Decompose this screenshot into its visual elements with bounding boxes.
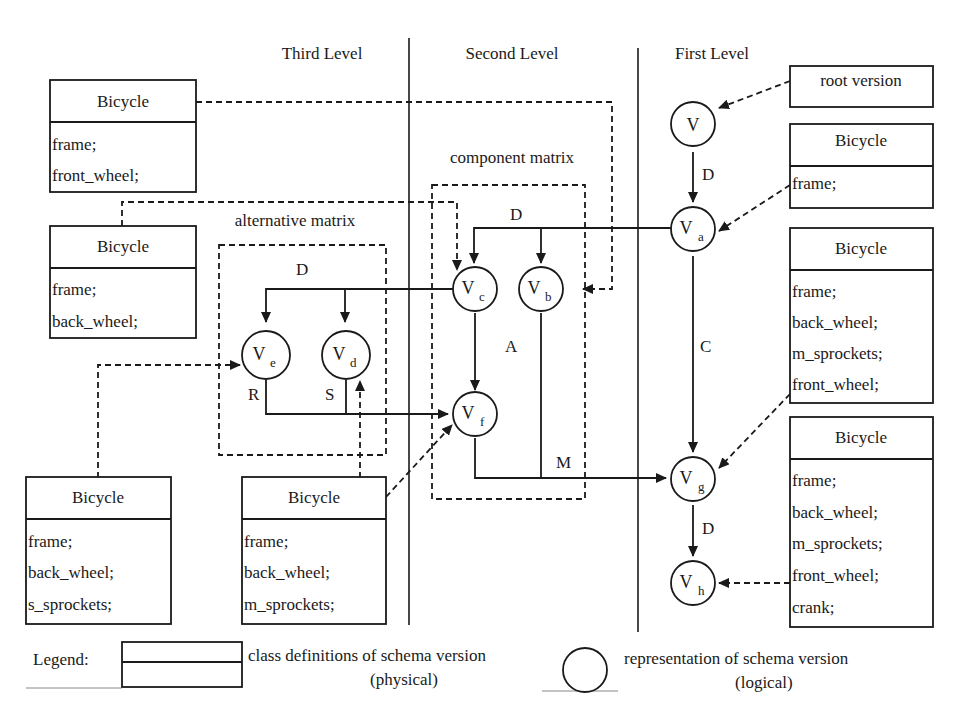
node-vf[interactable]: V f (453, 392, 497, 436)
mapping-left1-vb (196, 102, 612, 289)
edge-label-vg-vh: D (702, 519, 714, 538)
node-vh[interactable]: V h (671, 561, 715, 605)
class-box-left1[interactable]: Bicycle frame; front_wheel; (50, 80, 196, 192)
edge-va-vc (474, 228, 672, 263)
class-box-left2[interactable]: Bicycle frame; back_wheel; (50, 226, 196, 338)
svg-text:m_sprockets;: m_sprockets; (792, 344, 883, 363)
svg-text:Bicycle: Bicycle (288, 488, 340, 507)
edge-label-vd-vf: S (325, 385, 334, 404)
svg-text:front_wheel;: front_wheel; (792, 375, 879, 394)
root-version-box[interactable]: root version (790, 66, 933, 107)
svg-text:a: a (698, 229, 704, 244)
svg-text:Bicycle: Bicycle (97, 237, 149, 256)
svg-text:V: V (680, 572, 693, 592)
class-box-right3[interactable]: Bicycle frame; back_wheel; m_sprockets; … (790, 417, 933, 627)
node-vc[interactable]: V c (453, 267, 497, 311)
svg-text:h: h (698, 583, 705, 598)
edge-ve-vf (266, 380, 448, 414)
mapping-right1-va (719, 185, 790, 231)
svg-text:Bicycle: Bicycle (835, 239, 887, 258)
class-box-bottom1[interactable]: Bicycle frame; back_wheel; s_sprockets; (26, 477, 171, 624)
edge-label-vc-vf: A (505, 337, 518, 356)
svg-text:V: V (333, 344, 346, 364)
legend-logical-text: representation of schema version (624, 649, 849, 668)
class-box-right1[interactable]: Bicycle frame; (790, 124, 933, 208)
alternative-matrix-label: alternative matrix (235, 211, 356, 230)
legend-label: Legend: (33, 650, 89, 669)
svg-text:crank;: crank; (792, 598, 834, 617)
legend-physical-text: class definitions of schema version (248, 646, 486, 665)
svg-text:frame;: frame; (52, 280, 96, 299)
legend-physical-subtext: (physical) (370, 670, 438, 689)
second-level-title: Second Level (466, 44, 559, 63)
node-vg[interactable]: V g (671, 457, 715, 501)
svg-text:back_wheel;: back_wheel; (28, 563, 114, 582)
svg-text:frame;: frame; (792, 174, 836, 193)
edge-label-va-vcvb: D (510, 205, 522, 224)
svg-text:frame;: frame; (792, 282, 836, 301)
svg-text:V: V (253, 344, 266, 364)
svg-text:back_wheel;: back_wheel; (244, 563, 330, 582)
legend-logical-subtext: (logical) (735, 673, 793, 692)
svg-text:back_wheel;: back_wheel; (792, 503, 878, 522)
node-v[interactable]: V (671, 102, 715, 146)
svg-text:f: f (480, 414, 485, 429)
svg-text:root version: root version (820, 71, 902, 90)
svg-text:back_wheel;: back_wheel; (792, 313, 878, 332)
svg-text:s_sprockets;: s_sprockets; (28, 595, 112, 614)
svg-text:V: V (680, 468, 693, 488)
component-matrix-label: component matrix (450, 148, 575, 167)
edge-label-vb-vg: M (556, 453, 571, 472)
svg-text:V: V (680, 218, 693, 238)
mapping-right2-vg (719, 394, 790, 468)
svg-text:Bicycle: Bicycle (72, 488, 124, 507)
svg-text:m_sprockets;: m_sprockets; (792, 534, 883, 553)
schema-version-diagram: Third Level Second Level First Level com… (0, 0, 965, 722)
class-box-right2[interactable]: Bicycle frame; back_wheel; m_sprockets; … (790, 228, 933, 403)
svg-text:d: d (350, 355, 357, 370)
svg-text:V: V (462, 278, 475, 298)
node-vd[interactable]: V d (322, 331, 370, 379)
first-level-title: First Level (675, 44, 749, 63)
svg-text:m_sprockets;: m_sprockets; (244, 595, 335, 614)
node-va[interactable]: V a (671, 207, 715, 251)
svg-text:front_wheel;: front_wheel; (52, 166, 139, 185)
third-level-title: Third Level (282, 44, 363, 63)
svg-text:e: e (270, 355, 276, 370)
svg-text:frame;: frame; (28, 532, 72, 551)
edge-label-vc-vevd: D (296, 260, 308, 279)
class-box-bottom2[interactable]: Bicycle frame; back_wheel; m_sprockets; (242, 477, 386, 624)
svg-text:V: V (462, 403, 475, 423)
node-ve[interactable]: V e (242, 331, 290, 379)
svg-text:V: V (528, 278, 541, 298)
node-vb[interactable]: V b (519, 267, 563, 311)
svg-text:Bicycle: Bicycle (835, 131, 887, 150)
svg-text:front_wheel;: front_wheel; (792, 566, 879, 585)
edge-label-v-va: D (702, 165, 714, 184)
edge-label-va-vg: C (700, 337, 711, 356)
svg-text:Bicycle: Bicycle (835, 428, 887, 447)
edge-vc-ve (266, 289, 455, 322)
legend-class-box-icon (122, 642, 242, 687)
mapping-root-v (719, 81, 790, 108)
svg-text:Bicycle: Bicycle (97, 92, 149, 111)
legend-version-circle-icon (563, 648, 607, 692)
svg-text:frame;: frame; (52, 135, 96, 154)
svg-text:c: c (479, 289, 485, 304)
edge-label-ve-vf: R (248, 385, 260, 404)
svg-text:frame;: frame; (792, 471, 836, 490)
mapping-bottom1-ve (98, 365, 240, 478)
legend: Legend: class definitions of schema vers… (26, 642, 849, 692)
mapping-bottom2-vf (386, 425, 452, 497)
svg-text:V: V (687, 115, 700, 135)
svg-text:back_wheel;: back_wheel; (52, 312, 138, 331)
svg-text:b: b (545, 289, 552, 304)
svg-text:frame;: frame; (244, 532, 288, 551)
svg-text:g: g (698, 479, 705, 494)
